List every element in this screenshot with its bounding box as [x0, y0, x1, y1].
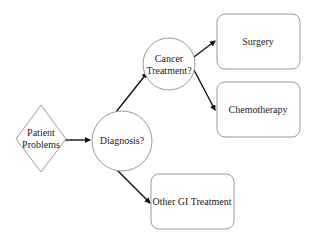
node-cancer-treatment: Cancer Treatment? [143, 38, 195, 90]
circle-shape [143, 38, 195, 90]
node-other-gi-treatment: Other GI Treatment [151, 174, 234, 229]
node-surgery: Surgery [217, 14, 300, 69]
edge-diagnosis-cancer [116, 73, 147, 112]
cancer-label-line2: Treatment? [146, 65, 192, 76]
node-chemotherapy: Chemotherapy [217, 82, 300, 137]
patient-label-line2: Problems [22, 139, 60, 150]
chemo-label: Chemotherapy [229, 104, 288, 115]
patient-label-line1: Patient [27, 127, 55, 138]
node-patient-problems: Patient Problems [16, 105, 66, 172]
flowchart: Patient Problems Diagnosis? Cancer Treat… [0, 0, 313, 239]
edge-cancer-surgery [194, 41, 215, 57]
other-label: Other GI Treatment [153, 196, 232, 207]
edge-cancer-chemo [194, 70, 215, 110]
edge-diagnosis-other [117, 170, 150, 203]
surgery-label: Surgery [242, 36, 273, 47]
node-diagnosis: Diagnosis? [92, 111, 152, 171]
diagnosis-label: Diagnosis? [100, 135, 145, 146]
cancer-label-line1: Cancer [155, 53, 184, 64]
